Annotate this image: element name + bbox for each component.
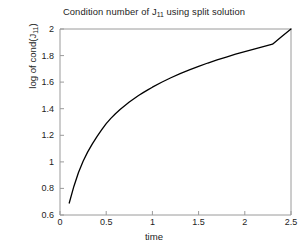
y-axis-label-suffix: ) — [27, 23, 38, 26]
y-tick-marks — [60, 29, 64, 215]
ytick-label-2: 1 — [30, 157, 54, 167]
data-series-line — [69, 29, 291, 203]
chart-figure: Condition number of J11 using split solu… — [0, 0, 308, 252]
y-axis-label: log of cond(J11) — [27, 0, 39, 136]
y-axis-label-prefix: log of cond(J — [27, 34, 38, 89]
y-axis-label-subscript: 11 — [32, 26, 39, 33]
xtick-label-4: 2 — [230, 217, 260, 227]
xtick-label-3: 1.5 — [184, 217, 214, 227]
xtick-label-5: 2.5 — [276, 217, 306, 227]
xtick-label-2: 1 — [137, 217, 167, 227]
axes-frame — [60, 29, 291, 215]
x-axis-label: time — [0, 231, 308, 242]
x-tick-marks — [60, 211, 291, 215]
xtick-label-1: 0.5 — [91, 217, 121, 227]
ytick-label-1: 0.8 — [30, 183, 54, 193]
xtick-label-0: 0 — [45, 217, 75, 227]
